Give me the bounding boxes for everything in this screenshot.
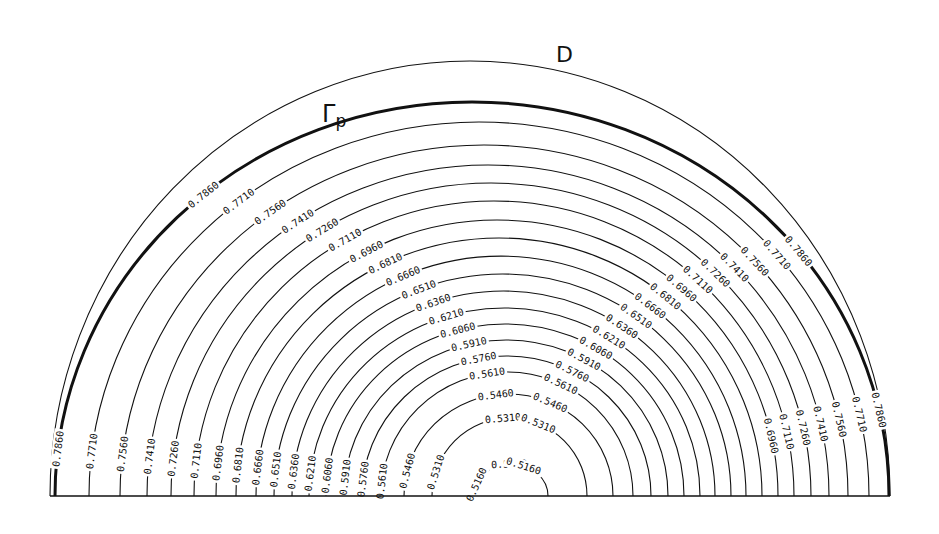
contour-label: 0.7410 [811,405,830,443]
contour-label: 0.7860 [869,391,888,429]
contour-labels: 0.51600.51600.51600.53100.53100.53100.54… [50,178,890,506]
contour-label: 0.7560 [115,435,130,472]
contour-label: 0.6360 [286,453,301,490]
contour-label: 0.7560 [252,197,288,227]
contour-label: 0.5610 [374,463,389,500]
contour-label: 0.7110 [777,413,796,451]
contour-label: 0.7410 [142,438,157,475]
contour-label: 0.6960 [762,417,781,455]
contour-label: 0.6510 [268,451,283,488]
contour-label: 0.7860 [50,430,65,467]
contour-label: 0.7710 [850,396,869,434]
contour-label: 0.6810 [230,447,245,484]
contour-label: 0.5760 [355,461,370,498]
contour-label: 0.7260 [166,440,181,477]
contour-label: 0.7710 [84,433,99,470]
contour-label: 0.7260 [794,409,813,447]
contour-label: 0.5160 [464,466,489,503]
contour-label: 0.5460 [531,390,569,414]
contour-line [147,165,829,496]
contour-lines [55,102,889,496]
contour-label: 0.6060 [320,457,335,494]
contour-label: 0.6660 [250,449,265,486]
contour-plot: 0.51600.51600.51600.53100.53100.53100.54… [0,0,939,534]
contour-gamma-p [55,102,889,496]
contour-label: 0.7560 [830,401,849,439]
contour-label: 0.5460 [397,452,417,490]
contour-line [194,201,794,496]
contour-label: 0.7110 [188,442,203,479]
contour-line [120,145,848,496]
contour-label: 0.5460 [477,387,514,402]
domain-label-D: D [556,42,573,67]
contour-label: 0.5910 [450,335,488,354]
contour-label: 0.5760 [460,350,498,368]
boundary-label-gamma-p: Γp [322,100,346,131]
contour-label: 0.5310 [484,411,521,425]
contour-label: 0.7710 [221,186,256,216]
contour-label: 0.5910 [337,459,352,496]
contour-label: 0.6960 [210,444,225,481]
contour-line [171,183,811,496]
contour-label: 0.5310 [519,412,557,436]
contour-label: 0.7860 [186,179,221,210]
contour-label: 0.5310 [425,453,446,491]
contour-label: 0.6210 [303,455,318,492]
